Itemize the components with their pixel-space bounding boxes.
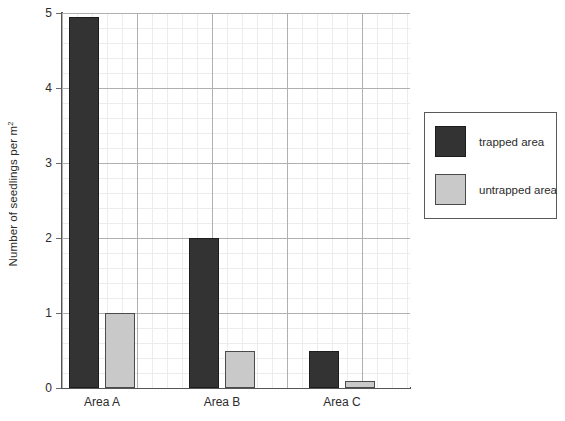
y-axis-title: Number of seedlings per m2 bbox=[0, 0, 26, 388]
legend-label: trapped area bbox=[479, 136, 544, 148]
legend-entry-untrapped: untrapped area bbox=[435, 174, 557, 205]
y-axis-tick-label: 3 bbox=[28, 157, 52, 169]
legend-label: untrapped area bbox=[479, 184, 557, 196]
bar-area-a-trapped bbox=[69, 17, 99, 388]
y-axis-title-main: Number of seedlings per m bbox=[7, 126, 19, 267]
bar-area-a-untrapped bbox=[105, 313, 135, 388]
bar-area-b-trapped bbox=[189, 238, 219, 388]
y-axis-tick-label: 2 bbox=[28, 232, 52, 244]
x-axis-category-label: Area B bbox=[177, 396, 267, 408]
legend-entry-trapped: trapped area bbox=[435, 126, 544, 157]
x-axis-category-label: Area C bbox=[297, 396, 387, 408]
x-axis-category-label: Area A bbox=[57, 396, 147, 408]
legend: trapped areauntrapped area bbox=[424, 112, 557, 219]
legend-swatch-trapped bbox=[435, 126, 466, 157]
legend-swatch-untrapped bbox=[435, 174, 466, 205]
y-axis-tick-label: 1 bbox=[28, 307, 52, 319]
bar-area-c-untrapped bbox=[345, 381, 375, 389]
y-axis-tick-label: 5 bbox=[28, 7, 52, 19]
y-axis-tick-label: 4 bbox=[28, 82, 52, 94]
y-axis-tick-label: 0 bbox=[28, 382, 52, 394]
y-axis-title-text: Number of seedlings per m2 bbox=[7, 122, 19, 267]
y-axis-title-superscript: 2 bbox=[5, 122, 14, 126]
bar-area-c-trapped bbox=[309, 351, 339, 389]
plot-top-gridline bbox=[62, 13, 410, 14]
bar-area-b-untrapped bbox=[225, 351, 255, 389]
plot-area bbox=[62, 13, 410, 388]
